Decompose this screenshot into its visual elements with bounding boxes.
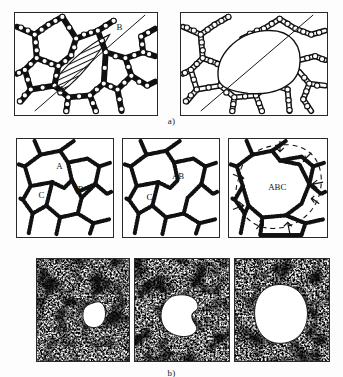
- panel-b-1: A C B: [16, 138, 114, 238]
- grain-label-b2-C: C: [147, 192, 153, 202]
- micrograph-1: [37, 259, 129, 361]
- zigzag-boundaries: [125, 141, 217, 235]
- grain-label-B: B: [117, 22, 123, 32]
- micrograph-3: [235, 259, 329, 361]
- grain-label-A: A: [58, 84, 65, 94]
- panel-a-left-drawing: A B: [15, 13, 157, 115]
- figure-root: A B: [0, 0, 343, 377]
- panel-b-3-drawing: ABC: [229, 139, 327, 237]
- figure-row-a: A B: [0, 0, 343, 132]
- zigzag-boundaries: [19, 141, 111, 235]
- grain-label-b1-C: C: [39, 190, 45, 200]
- panel-b-2-drawing: AB C: [123, 139, 219, 237]
- panel-c-2: [134, 258, 230, 362]
- grain-label-b1-A: A: [56, 161, 63, 171]
- coalesced-large-grain: [218, 31, 300, 94]
- grain-label-b2-AB: AB: [172, 171, 184, 181]
- panel-c-3: [234, 258, 330, 362]
- figure-row-c: c): [0, 254, 343, 377]
- panel-b-2: AB C: [122, 138, 220, 238]
- grain-label-b1-B: B: [78, 184, 84, 194]
- row-caption-a: a): [0, 116, 343, 126]
- panel-b-3: ABC: [228, 138, 328, 238]
- figure-row-b: A C B: [0, 132, 343, 254]
- panel-a-left: A B: [14, 12, 158, 116]
- panel-a-right: [180, 12, 328, 116]
- panel-b-1-drawing: A C B: [17, 139, 113, 237]
- panel-c-1: [36, 258, 130, 362]
- grain-label-b3-ABC: ABC: [268, 182, 286, 192]
- micrograph-2: [135, 259, 229, 361]
- panel-a-right-drawing: [181, 13, 327, 115]
- void-small: [83, 302, 106, 328]
- void-large: [255, 285, 308, 344]
